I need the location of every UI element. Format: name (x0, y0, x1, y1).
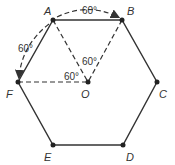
center-O-point (86, 80, 91, 85)
vertex-label-C: C (159, 88, 167, 100)
radius-OB (88, 20, 122, 82)
vertex-label-D: D (126, 151, 134, 163)
vertex-C-point (155, 80, 160, 85)
vertex-E-point (51, 143, 56, 148)
vertex-A-point (51, 18, 56, 23)
vertex-label-B: B (127, 5, 134, 17)
vertex-label-A: A (43, 5, 51, 17)
vertex-label-E: E (44, 151, 52, 163)
vertex-label-F: F (6, 88, 14, 100)
center-label-O: O (81, 88, 90, 100)
vertex-F-point (16, 80, 21, 85)
angle-label-arc-AF: 60° (18, 43, 33, 54)
angle-label-AOB: 60° (82, 56, 97, 67)
angle-label-arc-AB: 60° (82, 5, 97, 16)
vertex-B-point (120, 18, 125, 23)
hexagon-diagram: A B C D E F O 60° 60° 60° 60° (0, 0, 175, 165)
vertex-D-point (121, 143, 126, 148)
angle-label-FOA: 60° (64, 71, 79, 82)
